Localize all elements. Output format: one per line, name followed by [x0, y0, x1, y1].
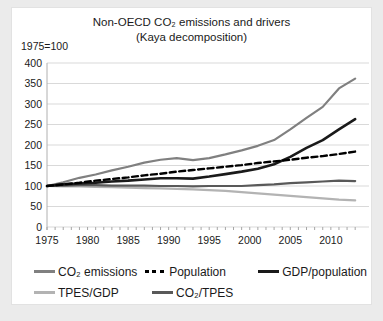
gdp-population-line-icon — [258, 270, 279, 273]
y-tick-label-350: 350 — [24, 77, 42, 89]
legend-row-1: CO₂ emissions Population GDP/population — [34, 261, 367, 282]
legend-label-co2-emissions: CO₂ emissions — [58, 265, 137, 279]
y-tick-label-100: 100 — [24, 180, 42, 192]
x-tick-label-1980: 1980 — [76, 234, 100, 246]
legend-label-tpes-gdp: TPES/GDP — [58, 286, 119, 300]
legend-label-co2-tpes: CO₂/TPES — [176, 286, 233, 300]
legend-label-population: Population — [169, 265, 226, 279]
x-tick-label-1985: 1985 — [116, 234, 140, 246]
legend-item-population: Population — [145, 265, 258, 279]
legend-item-tpes-gdp: TPES/GDP — [34, 286, 152, 300]
chart-title-line1: Non-OECD CO₂ emissions and drivers — [12, 15, 371, 30]
x-tick-label-1990: 1990 — [157, 234, 181, 246]
x-tick-label-2005: 2005 — [279, 234, 303, 246]
y-tick-label-50: 50 — [30, 200, 42, 212]
chart-legend: CO₂ emissions Population GDP/population … — [34, 261, 367, 303]
y-tick-label-250: 250 — [24, 118, 42, 130]
x-tick-label-1995: 1995 — [198, 234, 222, 246]
legend-item-gdp-population: GDP/population — [258, 265, 367, 279]
y-tick-label-200: 200 — [24, 139, 42, 151]
y-tick-label-150: 150 — [24, 159, 42, 171]
chart-panel: Non-OECD CO₂ emissions and drivers (Kaya… — [11, 7, 372, 305]
kaya-line-chart: 0501001502002503003504001975198019851990… — [12, 52, 373, 264]
legend-label-gdp-population: GDP/population — [282, 265, 367, 279]
legend-item-co2-tpes: CO₂/TPES — [152, 286, 272, 300]
index-base-label: 1975=100 — [21, 40, 68, 52]
y-tick-label-300: 300 — [24, 98, 42, 110]
co2-tpes-line-icon — [152, 291, 173, 294]
x-tick-label-1975: 1975 — [35, 234, 59, 246]
series-line-3 — [47, 186, 355, 200]
series-line-1 — [47, 152, 355, 186]
x-tick-label-2000: 2000 — [238, 234, 262, 246]
tpes-gdp-line-icon — [34, 291, 55, 294]
x-tick-label-2010: 2010 — [319, 234, 343, 246]
legend-row-2: TPES/GDP CO₂/TPES — [34, 282, 367, 303]
population-dashed-line-icon — [145, 270, 166, 273]
y-tick-label-0: 0 — [36, 221, 42, 233]
legend-item-co2-emissions: CO₂ emissions — [34, 265, 145, 279]
co2-emissions-line-icon — [34, 270, 55, 273]
y-tick-label-400: 400 — [24, 57, 42, 69]
